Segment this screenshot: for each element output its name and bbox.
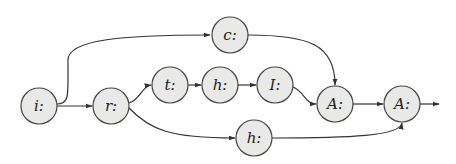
node-I: I:: [257, 67, 293, 103]
edge-r-to-h2: [129, 108, 235, 138]
node-t: t:: [152, 67, 188, 103]
node-label: r:: [105, 97, 117, 115]
node-A-second: A:: [384, 86, 420, 122]
edge-h2-to-A2: [272, 123, 402, 138]
graph-diagram: i: r: c: t: h: I: A: A: h:: [0, 0, 456, 164]
node-label: h:: [247, 129, 262, 147]
edge-i-to-c: [57, 35, 210, 104]
edge-r-to-t: [129, 85, 151, 103]
node-label: A:: [392, 95, 410, 113]
node-label: A:: [325, 95, 343, 113]
node-i: i:: [21, 88, 57, 124]
node-label: t:: [164, 76, 175, 94]
node-c: c:: [212, 17, 248, 53]
node-label: i:: [34, 97, 44, 115]
node-label: h:: [213, 76, 228, 94]
edge-I-to-A1: [293, 87, 316, 104]
node-h-bottom: h:: [236, 120, 272, 156]
node-A-first: A:: [317, 86, 353, 122]
node-h-top: h:: [202, 67, 238, 103]
node-r: r:: [93, 88, 129, 124]
node-label: c:: [223, 26, 236, 44]
node-label: I:: [269, 76, 281, 94]
